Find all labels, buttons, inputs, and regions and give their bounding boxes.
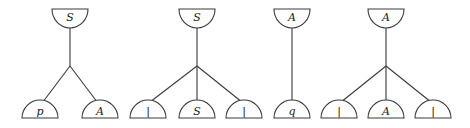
tree-1: SpA	[22, 9, 118, 118]
leaf-node: S	[179, 100, 215, 118]
edge	[44, 66, 70, 101]
leaf-node-label: A	[381, 105, 390, 118]
tree-2: S|S|	[130, 9, 262, 118]
root-node-label: A	[287, 11, 296, 24]
leaf-node: |	[226, 100, 262, 118]
leaf-node-label: p	[36, 105, 43, 118]
edge	[152, 66, 197, 101]
root-node-label: S	[66, 11, 74, 24]
root-node: A	[274, 9, 310, 28]
edge	[343, 66, 386, 101]
leaf-node-label: q	[288, 105, 295, 118]
leaf-node: A	[82, 100, 118, 118]
root-node-label: S	[193, 11, 201, 24]
leaf-node-label: |	[431, 105, 435, 118]
root-node: S	[179, 9, 215, 28]
leaf-node: q	[274, 100, 310, 118]
diagram-canvas: SpAS|S|AqA|A|	[0, 0, 470, 128]
leaf-node: |	[321, 100, 357, 118]
leaf-node: |	[415, 100, 451, 118]
leaf-node: |	[130, 100, 166, 118]
leaf-node-label: |	[146, 105, 150, 118]
edge	[197, 66, 240, 101]
leaf-node-label: |	[337, 105, 341, 118]
root-node-label: A	[381, 11, 390, 24]
root-node: A	[368, 9, 404, 28]
leaf-node: A	[368, 100, 404, 118]
edge	[70, 66, 96, 101]
root-node: S	[52, 9, 88, 28]
leaf-node-label: A	[95, 105, 104, 118]
leaf-node: p	[22, 100, 58, 118]
edge	[386, 66, 429, 101]
leaf-node-label: S	[193, 105, 201, 118]
leaf-node-label: |	[242, 105, 246, 118]
tree-3: Aq	[274, 9, 310, 118]
tree-4: A|A|	[321, 9, 451, 118]
